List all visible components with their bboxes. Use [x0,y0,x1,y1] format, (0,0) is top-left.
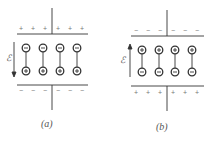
svg-text:+: + [146,89,150,96]
svg-text:−: − [80,87,84,94]
svg-text:−: − [43,87,47,94]
svg-text:+: + [195,89,199,96]
svg-text:−: − [56,87,60,94]
svg-text:−: − [19,87,23,94]
panel-b [128,10,204,111]
svg-text:+: + [68,25,72,32]
plate-charges-a: ++++++ −−−−−− [19,25,84,94]
svg-text:+: + [134,89,138,96]
svg-text:+: + [183,89,187,96]
svg-text:+: + [80,25,84,32]
svg-text:+: + [171,89,175,96]
svg-text:+: + [56,25,60,32]
svg-text:−: − [31,87,35,94]
svg-text:−: − [68,87,72,94]
caption-b: (b) [156,121,168,132]
svg-text:−: − [146,27,150,34]
svg-text:+: + [158,89,162,96]
svg-text:−: − [195,27,199,34]
panel-a [12,8,88,110]
field-label-a: ℰ [6,53,11,63]
svg-text:−: − [183,27,187,34]
svg-text:+: + [43,25,47,32]
dipole-diagram: ++++++ −−−−−− −−−−−− ++++++ [0,0,214,142]
svg-text:+: + [31,25,35,32]
field-label-b: ℰ [120,55,125,65]
arrowhead-down-icon [12,72,16,77]
svg-text:−: − [158,27,162,34]
svg-text:+: + [19,25,23,32]
caption-a: (a) [41,118,53,129]
svg-text:−: − [134,27,138,34]
arrowhead-up-icon [128,44,132,49]
svg-text:−: − [171,27,175,34]
